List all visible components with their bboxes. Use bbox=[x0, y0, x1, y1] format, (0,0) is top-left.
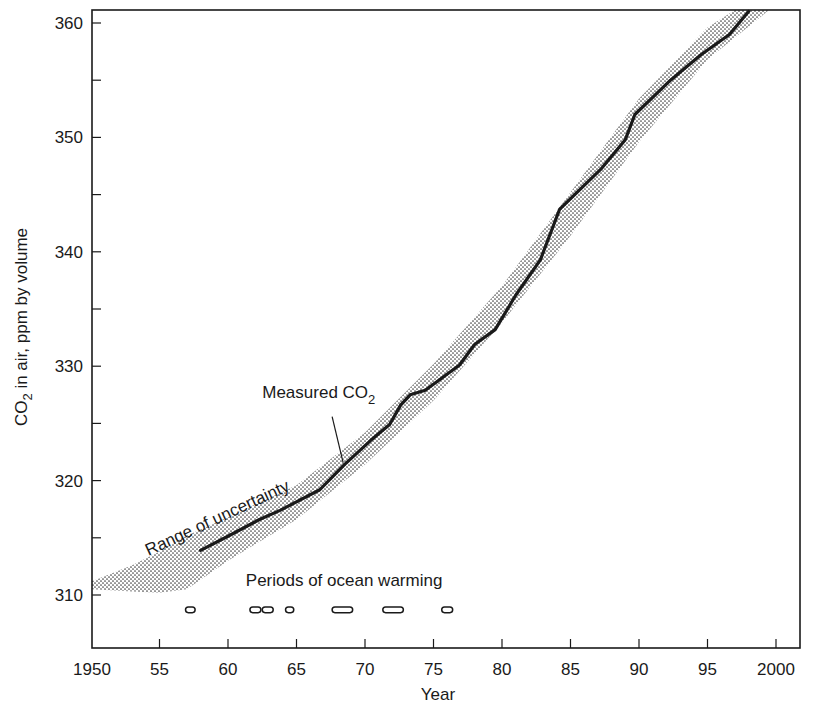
ocean-warming-period-marker bbox=[286, 607, 294, 613]
x-tick-label: 70 bbox=[356, 660, 375, 679]
ocean-warming-period-marker bbox=[332, 607, 353, 613]
ocean-warming-period-marker bbox=[186, 607, 196, 613]
x-axis: 19505560657075808590952000 bbox=[73, 639, 795, 679]
x-tick-label: 55 bbox=[150, 660, 169, 679]
x-tick-label: 95 bbox=[698, 660, 717, 679]
ocean-warming-period-marker bbox=[383, 607, 404, 613]
co2-chart: 19505560657075808590952000 3103203303403… bbox=[0, 0, 816, 718]
ocean-warming-period-marker bbox=[262, 607, 273, 613]
x-tick-label: 60 bbox=[219, 660, 238, 679]
y-tick-label: 360 bbox=[55, 14, 83, 33]
y-tick-label: 320 bbox=[55, 472, 83, 491]
y-axis: 310320330340350360 bbox=[55, 14, 101, 605]
x-tick-label: 1950 bbox=[73, 660, 111, 679]
ocean-warming-markers bbox=[186, 607, 453, 613]
periods-of-ocean-warming-label: Periods of ocean warming bbox=[246, 571, 443, 590]
x-tick-label: 85 bbox=[561, 660, 580, 679]
y-tick-label: 330 bbox=[55, 357, 83, 376]
x-tick-label: 80 bbox=[493, 660, 512, 679]
ocean-warming-period-marker bbox=[250, 607, 261, 613]
y-axis-title: CO2 in air, ppm by volume bbox=[12, 228, 35, 426]
y-tick-label: 310 bbox=[55, 586, 83, 605]
ocean-warming-period-marker bbox=[442, 607, 453, 613]
x-tick-label: 65 bbox=[287, 660, 306, 679]
x-tick-label: 75 bbox=[424, 660, 443, 679]
x-tick-label: 90 bbox=[630, 660, 649, 679]
y-tick-label: 350 bbox=[55, 128, 83, 147]
y-tick-label: 340 bbox=[55, 243, 83, 262]
x-axis-title: Year bbox=[421, 685, 456, 704]
measured-co2-label: Measured CO2 bbox=[262, 383, 375, 407]
x-tick-label: 2000 bbox=[757, 660, 795, 679]
uncertainty-band bbox=[92, 10, 769, 593]
